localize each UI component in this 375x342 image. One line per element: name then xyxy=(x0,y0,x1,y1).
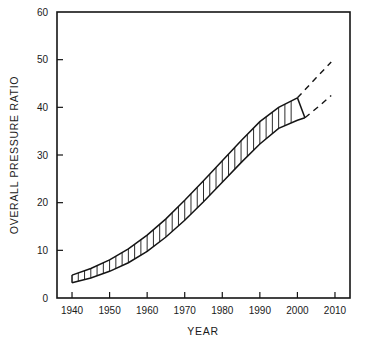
plot-frame xyxy=(57,12,350,298)
projection-lower xyxy=(305,95,331,117)
y-tick-label: 30 xyxy=(37,150,49,161)
x-tick-label: 2000 xyxy=(286,305,309,316)
projection-upper xyxy=(297,62,331,98)
x-axis-tick-labels: 19401950196019701980199020002010 xyxy=(61,305,347,316)
x-tick-label: 1960 xyxy=(136,305,159,316)
x-axis-title: YEAR xyxy=(187,325,218,337)
y-axis-title: OVERALL PRESSURE RATIO xyxy=(8,76,20,234)
y-axis-tick-labels: 0102030405060 xyxy=(37,7,49,304)
pressure-ratio-band xyxy=(72,98,305,283)
y-tick-label: 60 xyxy=(37,7,49,18)
x-tick-label: 2010 xyxy=(324,305,347,316)
chart-canvas: 0102030405060 19401950196019701980199020… xyxy=(0,0,375,342)
x-tick-label: 1940 xyxy=(61,305,84,316)
y-tick-label: 0 xyxy=(42,293,48,304)
band-area-fill xyxy=(72,98,305,283)
x-tick-label: 1990 xyxy=(249,305,272,316)
y-tick-label: 40 xyxy=(37,102,49,113)
y-tick-label: 50 xyxy=(37,54,49,65)
x-tick-label: 1980 xyxy=(211,305,234,316)
y-tick-label: 20 xyxy=(37,197,49,208)
pressure-ratio-chart: 0102030405060 19401950196019701980199020… xyxy=(0,0,375,342)
x-axis-ticks xyxy=(72,292,335,298)
x-tick-label: 1950 xyxy=(98,305,121,316)
y-tick-label: 10 xyxy=(37,245,49,256)
y-axis-ticks xyxy=(57,60,63,251)
x-tick-label: 1970 xyxy=(174,305,197,316)
